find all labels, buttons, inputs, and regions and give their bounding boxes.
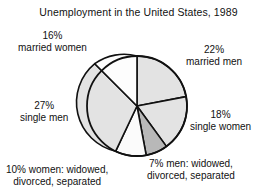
pie-label-single-men: 27% single men	[20, 100, 68, 123]
pie-label-single-women-cat: single women	[190, 121, 251, 133]
chart-title: Unemployment in the United States, 1989	[0, 6, 277, 18]
pie-label-married-men: 22% married men	[186, 44, 242, 67]
pie-label-men-wds-line2: divorced, separated	[147, 170, 235, 182]
pie-label-married-men-cat: married men	[186, 56, 242, 68]
pie-label-women-wds-line1: 10% women: widowed,	[6, 164, 108, 176]
pie-label-men-wds-line1: 7% men: widowed,	[147, 158, 235, 170]
pie-label-women-widowed-divorced-separated: 10% women: widowed, divorced, separated	[6, 164, 108, 187]
pie-label-single-women: 18% single women	[190, 109, 251, 132]
pie-label-women-wds-line2: divorced, separated	[6, 176, 108, 188]
pie-label-single-women-pct: 18%	[190, 109, 251, 121]
pie-label-men-widowed-divorced-separated: 7% men: widowed, divorced, separated	[147, 158, 235, 181]
pie-label-married-women-cat: married women	[18, 42, 87, 54]
pie-label-married-women-pct: 16%	[18, 30, 87, 42]
pie-label-single-men-pct: 27%	[20, 100, 68, 112]
pie-label-married-men-pct: 22%	[186, 44, 242, 56]
pie-label-single-men-cat: single men	[20, 112, 68, 124]
pie-label-married-women: 16% married women	[18, 30, 87, 53]
pie-chart-figure: Unemployment in the United States, 1989 …	[0, 0, 277, 196]
